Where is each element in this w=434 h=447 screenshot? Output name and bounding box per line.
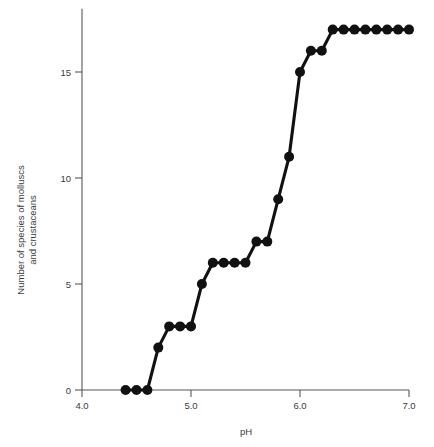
data-series-line	[126, 30, 409, 390]
data-point	[371, 25, 381, 35]
data-point	[153, 343, 163, 353]
data-point	[121, 385, 131, 395]
x-axis-tick-label: 7.0	[402, 400, 415, 411]
data-point	[186, 321, 196, 331]
data-point	[295, 67, 305, 77]
data-point	[197, 279, 207, 289]
y-axis-tick-label: 10	[60, 173, 71, 184]
axes	[82, 9, 409, 390]
data-point	[251, 237, 261, 247]
y-axis-tick-label: 0	[66, 385, 71, 396]
y-axis-title-line-2: and crustaceans	[27, 195, 38, 265]
data-point	[284, 152, 294, 162]
data-point	[328, 25, 338, 35]
data-point	[306, 46, 316, 56]
x-axis-title: pH	[240, 426, 252, 437]
data-point	[208, 258, 218, 268]
data-point	[262, 237, 272, 247]
data-point	[393, 25, 403, 35]
y-axis-title-line-1: Number of species of molluscs	[15, 165, 26, 295]
data-point	[339, 25, 349, 35]
data-point	[164, 321, 174, 331]
data-point	[382, 25, 392, 35]
series-polyline	[126, 30, 409, 390]
data-point	[241, 258, 251, 268]
data-point	[219, 258, 229, 268]
data-point	[317, 46, 327, 56]
data-point	[404, 25, 414, 35]
data-point	[273, 194, 283, 204]
axis-ticks	[75, 72, 409, 397]
y-axis-tick-label: 15	[60, 67, 71, 78]
data-point	[142, 385, 152, 395]
data-point-markers	[121, 25, 414, 395]
data-point	[132, 385, 142, 395]
axis-tick-labels: 4.05.06.07.0051015	[60, 67, 415, 412]
data-point	[175, 321, 185, 331]
x-axis-tick-label: 5.0	[184, 400, 197, 411]
chart-figure: 4.05.06.07.0051015 pH Number of species …	[0, 0, 434, 447]
data-point	[230, 258, 240, 268]
data-point	[360, 25, 370, 35]
x-axis-tick-label: 4.0	[75, 400, 88, 411]
chart-canvas: 4.05.06.07.0051015 pH Number of species …	[0, 0, 434, 447]
x-axis-tick-label: 6.0	[293, 400, 306, 411]
y-axis-tick-label: 5	[66, 279, 71, 290]
data-point	[350, 25, 360, 35]
